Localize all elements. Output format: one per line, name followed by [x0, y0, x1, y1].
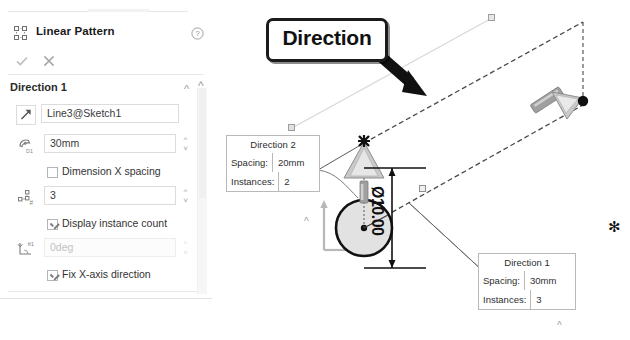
- instance-count-icon: #: [16, 187, 36, 207]
- direction2-instances-row: Instances: 2: [227, 172, 319, 191]
- svg-text:θ1: θ1: [28, 241, 35, 247]
- section-divider-bottom: [8, 291, 204, 292]
- display-instance-count-label: Display instance count: [62, 217, 167, 229]
- fix-x-axis-checkbox[interactable]: [47, 270, 58, 281]
- dimension-handle[interactable]: [420, 186, 426, 192]
- display-instance-count-checkbox-row[interactable]: Display instance count: [47, 217, 167, 233]
- spacing-stepper[interactable]: ^˅: [180, 135, 191, 153]
- panel-action-row: [0, 52, 212, 72]
- diameter-dimension-text[interactable]: Ø10.00: [368, 186, 386, 235]
- direction2-spacing-value[interactable]: 20mm: [272, 153, 319, 172]
- drag-arrow-endpoint[interactable]: [578, 96, 588, 106]
- direction1-collapse-icon[interactable]: ^: [557, 320, 562, 331]
- direction2-title: Direction 2: [227, 136, 319, 153]
- graphics-viewport[interactable]: Ø10.00 Direction Direction 2 Spacing: 20…: [212, 0, 630, 340]
- direction2-instances-value[interactable]: 2: [278, 172, 319, 191]
- panel-tab-active[interactable]: [88, 9, 150, 12]
- endpoint-handle-lower[interactable]: [289, 125, 295, 131]
- direction1-info-box[interactable]: Direction 1 Spacing: 30mm Instances: 3: [478, 253, 576, 310]
- section-collapse-icon[interactable]: ^: [184, 84, 189, 95]
- direction2-collapse-icon[interactable]: ^: [304, 216, 309, 227]
- direction1-instances-label: Instances:: [479, 290, 530, 309]
- angle-row: θ1 0deg ^˅: [0, 238, 212, 260]
- direction-reference-input[interactable]: Line3@Sketch1: [41, 104, 179, 123]
- spacing-row: D1 30mm ^˅: [0, 134, 212, 156]
- direction2-spacing-row: Spacing: 20mm: [227, 153, 319, 172]
- angle-input[interactable]: 0deg: [44, 238, 176, 257]
- direction1-spacing-value[interactable]: 30mm: [524, 271, 575, 290]
- section-header-direction1[interactable]: Direction 1: [10, 81, 67, 93]
- direction2-instances-label: Instances:: [227, 172, 278, 191]
- linear-pattern-icon: [14, 26, 30, 41]
- section-divider-top: [8, 74, 204, 75]
- instances-input[interactable]: 3: [44, 186, 176, 205]
- dimension-x-spacing-label: Dimension X spacing: [62, 165, 161, 177]
- spacing-input[interactable]: 30mm: [44, 134, 176, 153]
- cancel-button[interactable]: [42, 54, 56, 68]
- dimension-x-spacing-checkbox-row[interactable]: Dimension X spacing: [47, 165, 161, 181]
- fix-x-axis-checkbox-row[interactable]: Fix X-axis direction: [47, 268, 151, 284]
- direction1-spacing-row: Spacing: 30mm: [479, 271, 575, 290]
- pattern-edge-bottom: [364, 105, 583, 228]
- instances-row: # 3 ^˅: [0, 186, 212, 208]
- direction-callout: Direction: [266, 18, 388, 62]
- direction2-info-box[interactable]: Direction 2 Spacing: 20mm Instances: 2: [226, 135, 320, 192]
- direction1-title: Direction 1: [479, 254, 575, 271]
- accept-button[interactable]: [15, 54, 29, 68]
- display-instance-count-checkbox[interactable]: [47, 219, 58, 230]
- svg-text:?: ?: [195, 29, 199, 38]
- help-icon[interactable]: ?: [191, 27, 204, 40]
- panel-header: Linear Pattern ?: [0, 22, 212, 48]
- svg-text:#: #: [30, 199, 34, 206]
- endpoint-handle-upper[interactable]: [489, 15, 495, 21]
- spacing-d1-icon: D1: [16, 135, 36, 155]
- panel-scrollbar[interactable]: [197, 88, 207, 294]
- fix-x-axis-label: Fix X-axis direction: [62, 268, 151, 280]
- direction-arrow-icon[interactable]: [16, 105, 36, 125]
- page-title: Linear Pattern: [36, 25, 115, 37]
- pattern-edge-top: [364, 22, 583, 143]
- direction1-instances-row: Instances: 3: [479, 290, 575, 309]
- angle-theta1-icon: θ1: [16, 239, 36, 259]
- linear-pattern-property-panel: Linear Pattern ? Direction 1 ^ ^ Line3@S…: [0, 0, 213, 299]
- dimension-x-spacing-checkbox[interactable]: [47, 167, 58, 178]
- direction2-spacing-label: Spacing:: [227, 153, 272, 172]
- svg-text:D1: D1: [26, 148, 33, 154]
- direction-reference-row: Line3@Sketch1: [0, 104, 212, 126]
- angle-stepper: ^˅: [180, 239, 191, 257]
- direction1-instances-value[interactable]: 3: [530, 290, 575, 309]
- direction-callout-label: Direction: [269, 21, 385, 54]
- panel-scrollbar-thumb[interactable]: [199, 88, 206, 198]
- instances-stepper[interactable]: ^˅: [180, 187, 191, 205]
- direction1-spacing-label: Spacing:: [479, 271, 524, 290]
- asterisk-marker: ✻: [608, 219, 621, 234]
- direction1-leader: [408, 202, 484, 272]
- drag-arrow-diagonal-icon[interactable]: [530, 87, 588, 119]
